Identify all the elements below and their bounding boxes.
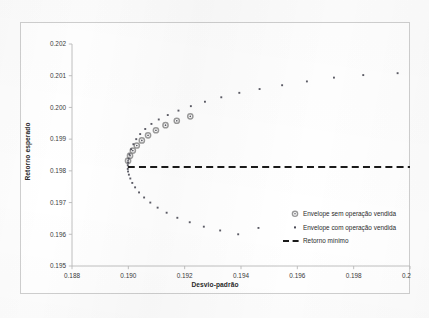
data-point-marker — [219, 230, 221, 232]
x-axis-tick-label: 0.188 — [64, 272, 80, 279]
figure-canvas: 0.1950.1960.1970.1980.1990.2000.2010.202… — [0, 0, 429, 318]
data-point-marker — [144, 128, 146, 130]
data-point-marker — [281, 84, 283, 86]
y-axis-tick-label: 0.195 — [50, 262, 66, 269]
x-axis-tick-label: 0.190 — [120, 272, 136, 279]
y-axis-title: Retorno esperado — [24, 107, 31, 197]
x-axis-title: Desvio-padrão — [20, 281, 410, 288]
y-axis-tick-label: 0.199 — [50, 135, 66, 142]
x-axis-tick-label: 0.200 — [402, 272, 411, 279]
data-point-marker — [362, 74, 364, 76]
data-point-marker — [127, 162, 129, 164]
chart-legend: Envelope sem operação vendidaEnvelope co… — [283, 210, 397, 244]
y-axis-tick-label: 0.202 — [50, 40, 66, 47]
data-point-marker — [220, 96, 222, 98]
data-point-marker — [306, 80, 308, 82]
legend-marker-circle-core-icon — [294, 213, 296, 215]
data-point-marker — [189, 221, 191, 223]
data-point-marker — [129, 153, 131, 155]
y-axis-tick-label: 0.201 — [50, 72, 66, 79]
legend-item-label: Retorno mínimo — [303, 237, 349, 244]
y-axis-tick-label: 0.196 — [50, 231, 66, 238]
data-point-marker — [178, 110, 180, 112]
data-point-marker — [132, 143, 134, 145]
data-point-marker — [397, 72, 399, 74]
data-point-marker — [238, 92, 240, 94]
data-point-marker — [127, 168, 129, 170]
data-point-core — [189, 115, 191, 117]
data-point-core — [136, 145, 138, 147]
data-point-marker — [203, 226, 205, 228]
data-point-marker — [166, 212, 168, 214]
x-axis-tick-label: 0.194 — [233, 272, 249, 279]
chart-plot-frame: 0.1950.1960.1970.1980.1990.2000.2010.202… — [20, 22, 410, 294]
data-point-marker — [139, 133, 141, 135]
legend-marker-dot-icon — [294, 226, 296, 228]
legend-item-label: Envelope sem operação vendida — [303, 210, 397, 218]
data-point-core — [147, 134, 149, 136]
x-axis-tick-label: 0.196 — [289, 272, 305, 279]
x-axis-tick-label: 0.192 — [177, 272, 193, 279]
data-point-marker — [150, 123, 152, 125]
x-axis-tick-label: 0.198 — [346, 272, 362, 279]
data-point-marker — [127, 164, 129, 166]
legend-item-label: Envelope com operação vendida — [303, 224, 397, 232]
data-point-marker — [131, 182, 133, 184]
chart-svg: 0.1950.1960.1970.1980.1990.2000.2010.202… — [21, 23, 411, 295]
data-point-marker — [258, 227, 260, 229]
data-point-marker — [167, 114, 169, 116]
data-point-core — [165, 124, 167, 126]
data-point-marker — [127, 171, 129, 173]
data-point-core — [155, 129, 157, 131]
data-point-marker — [204, 101, 206, 103]
data-point-marker — [128, 158, 130, 160]
data-point-marker — [157, 207, 159, 209]
data-point-marker — [237, 233, 239, 235]
data-point-marker — [259, 88, 261, 90]
y-axis-tick-label: 0.197 — [50, 199, 66, 206]
data-point-marker — [134, 186, 136, 188]
data-point-marker — [176, 217, 178, 219]
y-axis-tick-label: 0.200 — [50, 104, 66, 111]
data-point-marker — [333, 77, 335, 79]
data-point-marker — [135, 138, 137, 140]
data-point-marker — [149, 202, 151, 204]
data-point-marker — [128, 174, 130, 176]
data-point-core — [127, 160, 129, 162]
data-point-marker — [158, 119, 160, 121]
data-point-marker — [138, 191, 140, 193]
data-point-core — [141, 140, 143, 142]
data-point-core — [176, 120, 178, 122]
data-point-marker — [190, 105, 192, 107]
data-point-core — [132, 150, 134, 152]
y-axis-tick-label: 0.198 — [50, 167, 66, 174]
data-point-marker — [129, 178, 131, 180]
data-point-marker — [143, 197, 145, 199]
data-point-marker — [130, 148, 132, 150]
